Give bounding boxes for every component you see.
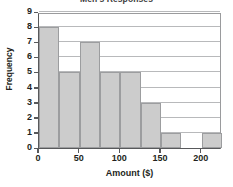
y-tick-label: 9 bbox=[27, 6, 32, 17]
x-tick-label: 0 bbox=[35, 153, 40, 164]
y-axis-tick: 1 bbox=[0, 133, 38, 134]
x-axis-ticks: 050100150200 bbox=[38, 149, 221, 169]
histogram-bar bbox=[59, 72, 79, 148]
y-tick-label: 2 bbox=[27, 112, 32, 123]
histogram-figure: Men's Responses Frequency 0123456789 050… bbox=[0, 0, 233, 187]
y-tick-label: 1 bbox=[27, 127, 32, 138]
bar-series bbox=[39, 14, 220, 148]
y-axis-tick: 3 bbox=[0, 103, 38, 104]
histogram-bar bbox=[161, 133, 181, 148]
y-axis-tick: 5 bbox=[0, 72, 38, 73]
x-tick-label: 150 bbox=[152, 153, 167, 164]
histogram-bar bbox=[202, 133, 222, 148]
histogram-bar bbox=[80, 42, 100, 148]
x-tick-label: 100 bbox=[112, 153, 127, 164]
histogram-bar bbox=[100, 72, 120, 148]
plot-area bbox=[38, 13, 221, 149]
y-tick-label: 7 bbox=[27, 36, 32, 47]
y-axis-ticks: 0123456789 bbox=[0, 13, 38, 149]
y-tick-label: 4 bbox=[27, 82, 32, 93]
y-tick-label: 5 bbox=[27, 66, 32, 77]
y-axis-tick: 0 bbox=[0, 148, 38, 149]
y-axis-tick: 7 bbox=[0, 42, 38, 43]
histogram-bar bbox=[141, 103, 161, 148]
y-axis-tick: 8 bbox=[0, 27, 38, 28]
y-tick-label: 0 bbox=[27, 142, 32, 153]
histogram-bar bbox=[39, 27, 59, 148]
x-tick-label: 50 bbox=[74, 153, 84, 164]
x-axis-title: Amount ($) bbox=[38, 168, 221, 178]
y-tick-label: 3 bbox=[27, 97, 32, 108]
y-axis-tick: 6 bbox=[0, 57, 38, 58]
x-tick-label: 200 bbox=[193, 153, 208, 164]
y-tick-label: 8 bbox=[27, 21, 32, 32]
y-axis-tick: 4 bbox=[0, 88, 38, 89]
gridline bbox=[39, 11, 220, 12]
y-axis-tick: 9 bbox=[0, 12, 38, 13]
chart-title: Men's Responses bbox=[0, 0, 233, 4]
y-axis-tick: 2 bbox=[0, 118, 38, 119]
histogram-bar bbox=[120, 72, 140, 148]
y-tick-label: 6 bbox=[27, 51, 32, 62]
